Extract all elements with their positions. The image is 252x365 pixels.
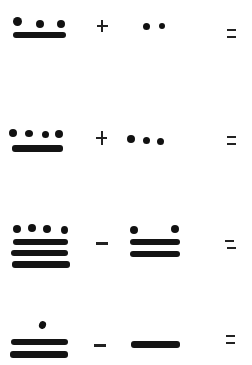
answer-blank[interactable] <box>240 234 252 258</box>
dot-icon <box>130 226 138 234</box>
bar-icon <box>10 351 68 358</box>
dot-icon <box>42 131 49 138</box>
dot-icon <box>143 23 150 30</box>
answer-blank[interactable] <box>240 328 252 352</box>
dot-icon <box>9 129 17 137</box>
dot-icon <box>127 135 135 143</box>
dot-icon <box>36 20 44 28</box>
dot-icon <box>171 225 179 233</box>
dot-icon <box>159 23 165 29</box>
bar-icon <box>12 145 63 152</box>
dot-icon <box>13 225 21 233</box>
dot-icon <box>28 224 36 232</box>
dot-icon <box>43 225 51 233</box>
bar-icon <box>13 32 66 38</box>
dot-icon <box>38 320 47 330</box>
bar-icon <box>13 239 68 245</box>
dot-icon <box>157 138 164 145</box>
dot-icon <box>13 17 22 26</box>
dot-icon <box>61 226 68 234</box>
bar-icon <box>11 250 68 256</box>
answer-blank[interactable] <box>240 20 252 44</box>
bar-icon <box>12 261 70 268</box>
dot-icon <box>143 137 150 144</box>
bar-icon <box>11 339 68 345</box>
bar-icon <box>130 251 180 257</box>
dot-icon <box>57 20 65 28</box>
bar-icon <box>131 341 180 348</box>
bar-icon <box>130 239 180 245</box>
dot-icon <box>55 130 63 138</box>
answer-blank[interactable] <box>240 128 252 152</box>
dot-icon <box>25 130 33 137</box>
